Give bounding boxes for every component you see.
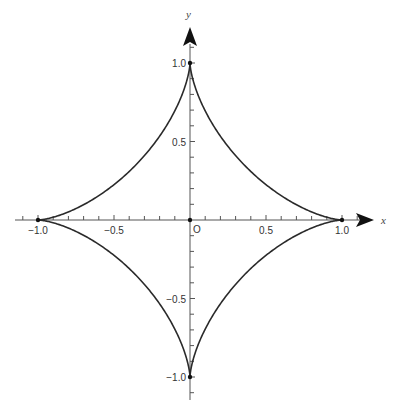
y-tick-label: 0.5 bbox=[172, 137, 186, 148]
y-tick-label: 1.0 bbox=[172, 58, 186, 69]
cusp-point bbox=[188, 375, 192, 379]
astroid-chart: x y −1.0−0.50.51.01.00.5−0.5−1.0 O bbox=[0, 0, 395, 417]
x-tick-label: 0.5 bbox=[259, 225, 273, 236]
cusp-point bbox=[36, 218, 40, 222]
origin-label: O bbox=[193, 224, 201, 235]
x-tick-label: −0.5 bbox=[104, 225, 124, 236]
y-axis-arrow-icon bbox=[183, 27, 197, 46]
cusp-point bbox=[188, 61, 192, 65]
y-tick-label: −1.0 bbox=[166, 372, 186, 383]
x-axis-label: x bbox=[380, 214, 386, 226]
x-tick-label: −1.0 bbox=[28, 225, 48, 236]
origin-point bbox=[188, 218, 192, 222]
y-axis-label: y bbox=[185, 8, 191, 20]
cusp-point bbox=[340, 218, 344, 222]
y-tick-label: −0.5 bbox=[166, 294, 186, 305]
x-tick-label: 1.0 bbox=[335, 225, 349, 236]
